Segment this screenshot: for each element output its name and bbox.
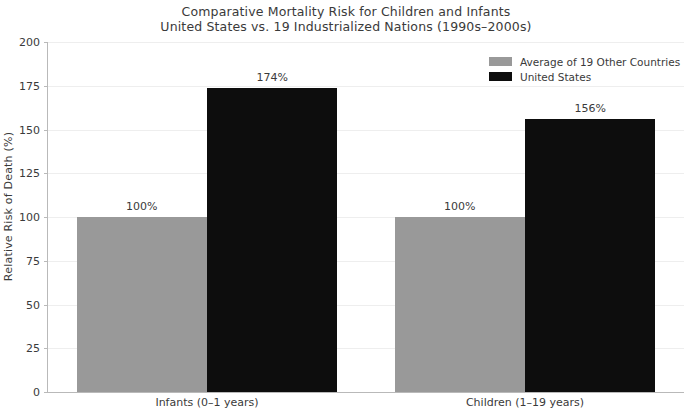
gridline [48,42,684,43]
bar-value-label: 100% [126,200,157,213]
y-tick-label: 50 [0,298,40,311]
bar-value-label: 100% [444,200,475,213]
y-tick-label: 175 [0,79,40,92]
y-tick-label: 100 [0,211,40,224]
gridline [48,86,684,87]
y-tick-label: 75 [0,254,40,267]
y-tick-label: 150 [0,123,40,136]
x-category-label: Children (1–19 years) [466,396,584,409]
bar[interactable] [207,88,337,393]
chart-legend: Average of 19 Other Countries United Sta… [489,56,680,82]
legend-item-average-of-19-other-countries[interactable]: Average of 19 Other Countries [489,56,680,67]
chart-subtitle: United States vs. 19 Industrialized Nati… [0,19,692,34]
legend-label: Average of 19 Other Countries [520,56,680,68]
legend-label: United States [520,71,591,83]
x-axis-line [47,392,684,393]
chart-title-block: Comparative Mortality Risk for Children … [0,4,692,34]
y-tick-mark [44,392,48,393]
legend-swatch-icon [489,72,512,81]
legend-swatch-icon [489,57,512,66]
bar[interactable] [525,119,655,392]
chart-title: Comparative Mortality Risk for Children … [0,4,692,19]
y-tick-label: 200 [0,36,40,49]
y-tick-label: 25 [0,342,40,355]
bar[interactable] [395,217,525,392]
bar-value-label: 156% [574,102,605,115]
y-tick-label: 125 [0,167,40,180]
bar-value-label: 174% [256,71,287,84]
legend-item-united-states[interactable]: United States [489,71,680,82]
bar[interactable] [77,217,207,392]
bar-chart-figure: Comparative Mortality Risk for Children … [0,0,692,413]
x-category-label: Infants (0–1 years) [155,396,258,409]
y-tick-label: 0 [0,386,40,399]
